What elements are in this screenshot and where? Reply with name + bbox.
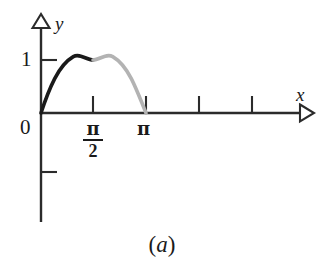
y-tick-label-1: 1 (21, 49, 32, 70)
caption-letter: a (156, 232, 168, 257)
y-axis-label: y (55, 14, 63, 33)
x-tick-label-pi-half: π 2 (79, 119, 107, 162)
x-tick-label-pi: π (137, 120, 150, 138)
y-axis-arrowhead-icon (33, 14, 50, 28)
sine-curve-rising (41, 56, 93, 113)
sine-curve-falling (93, 56, 146, 113)
sine-curve-figure: y x 1 0 π 2 π (a) (0, 0, 324, 276)
pi-half-numerator: π (79, 119, 107, 138)
x-axis-arrowhead-icon (300, 105, 314, 122)
origin-label: 0 (20, 117, 31, 138)
pi-half-denominator: 2 (79, 142, 107, 161)
figure-caption: (a) (0, 232, 324, 258)
x-axis-label: x (296, 85, 304, 104)
caption-paren-close: ) (168, 232, 176, 257)
